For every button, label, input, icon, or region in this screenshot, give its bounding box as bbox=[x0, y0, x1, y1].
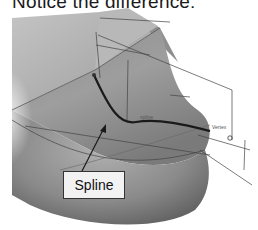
cad-model-illustration: spline Vertex bbox=[0, 0, 258, 230]
spline-callout: Spline bbox=[63, 171, 125, 199]
spline-annotation: spline bbox=[140, 114, 153, 120]
spline-callout-label: Spline bbox=[75, 177, 114, 193]
vertex-annotation-right: Vertex bbox=[212, 124, 227, 130]
